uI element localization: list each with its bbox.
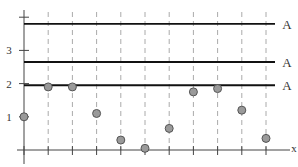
data-point [20, 113, 28, 121]
y-tick-label: 2 [6, 78, 12, 90]
reference-lines [24, 24, 275, 85]
data-point [117, 136, 125, 144]
y-tick-label: 3 [6, 44, 12, 56]
data-point [214, 85, 222, 93]
y-tick-label: 1 [6, 111, 12, 123]
vertical-gridlines [48, 12, 266, 150]
data-point [262, 134, 270, 142]
data-point [141, 144, 149, 152]
data-point [68, 83, 76, 91]
x-axis-label: x [291, 142, 297, 154]
data-point [44, 83, 52, 91]
reference-line-label: A [282, 78, 292, 93]
reference-line-label: A [282, 17, 292, 32]
data-point [93, 109, 101, 117]
scatter-chart: 123xAAA [0, 0, 298, 167]
reference-line-label: A [282, 55, 292, 70]
data-point [189, 88, 197, 96]
axes [17, 10, 290, 164]
data-point [238, 106, 246, 114]
data-point [165, 124, 173, 132]
chart-canvas: 123xAAA [0, 0, 298, 167]
